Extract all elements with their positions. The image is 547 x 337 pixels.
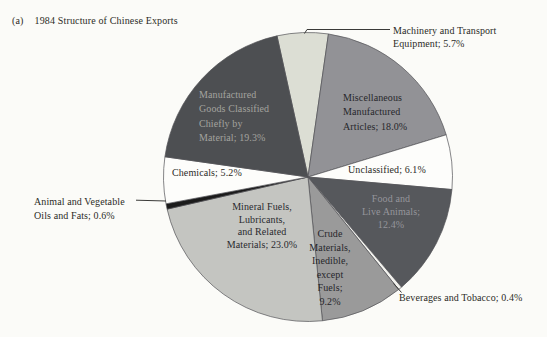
leader-line-animal	[136, 200, 166, 201]
slice-label-food: Food and Live Animals; 12.4%	[353, 193, 429, 231]
slice-label-misc: Miscellaneous Manufactured Articles; 18.…	[343, 91, 407, 135]
slice-label-machinery: Machinery and Transport Equipment; 5.7%	[393, 24, 496, 51]
pie-chart	[0, 0, 547, 337]
figure-1984-chinese-exports-pie-chart: (a)1984 Structure of Chinese Exports Mac…	[0, 0, 547, 337]
slice-label-animal: Animal and Vegetable Oils and Fats; 0.6%	[34, 195, 125, 223]
slice-label-manufactured: Manufactured Goods Classified Chiefly by…	[199, 88, 269, 145]
slice-label-unclassified: Unclassified; 6.1%	[348, 164, 426, 175]
slice-label-mineral: Mineral Fuels, Lubricants, and Related M…	[212, 201, 312, 252]
slice-label-chemicals: Chemicals; 5.2%	[172, 167, 242, 178]
slice-label-beverages: Beverages and Tobacco; 0.4%	[399, 292, 522, 303]
